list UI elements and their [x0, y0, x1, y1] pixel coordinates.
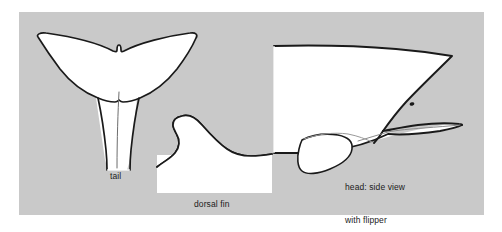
- dorsal-fin-figure: [157, 115, 272, 193]
- head-body-shape: [274, 46, 462, 152]
- figure-container: tail dorsal fin head: side view with fli…: [0, 0, 502, 232]
- label-dorsal-fin: dorsal fin: [194, 199, 230, 210]
- label-head-line-1: head: side view: [345, 182, 405, 193]
- label-head: head: side view with flipper: [345, 160, 405, 232]
- label-tail: tail: [110, 171, 121, 182]
- head-eye-icon: [409, 102, 414, 106]
- anatomy-illustration: [0, 0, 502, 232]
- head-figure: [274, 46, 462, 174]
- head-flipper-shape: [298, 134, 352, 173]
- tail-figure: [37, 33, 196, 170]
- tail-flukes-shape: [37, 33, 196, 102]
- label-head-line-2: with flipper: [345, 215, 405, 226]
